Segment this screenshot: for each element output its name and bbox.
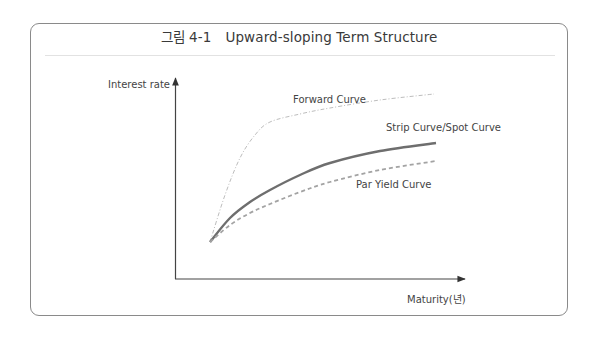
forward-curve (210, 94, 434, 242)
strip-spot-curve (210, 143, 436, 242)
par-yield-curve-label: Par Yield Curve (356, 179, 432, 190)
x-axis-label: Maturity(년) (407, 291, 466, 306)
par-yield-curve (210, 161, 436, 242)
strip-curve-label: Strip Curve/Spot Curve (386, 122, 501, 133)
y-axis-label: Interest rate (108, 79, 170, 90)
forward-curve-label: Forward Curve (293, 94, 366, 105)
plot-area (0, 0, 598, 339)
